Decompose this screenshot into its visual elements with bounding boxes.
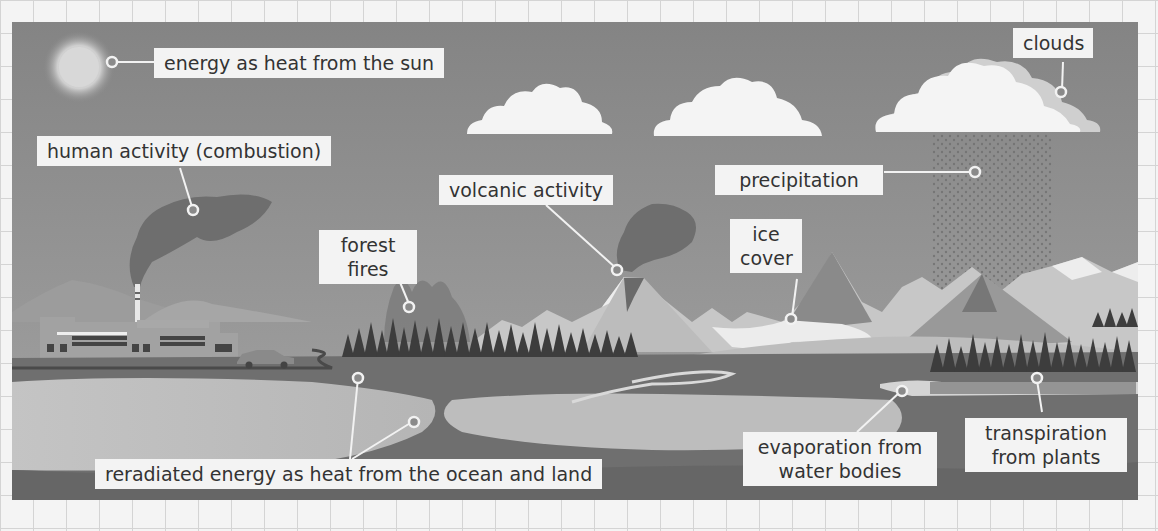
label-clouds: clouds: [1013, 28, 1093, 58]
label-human-activity: human activity (combustion): [37, 136, 331, 166]
label-line: transpiration: [975, 421, 1117, 445]
label-volcanic-activity: volcanic activity: [439, 175, 613, 205]
label-line: cover: [740, 246, 792, 270]
tree-reflections: [930, 382, 1136, 394]
label-reradiated-energy: reradiated energy as heat from the ocean…: [95, 459, 602, 489]
label-forest-fires: forest fires: [319, 230, 417, 284]
label-line: ice: [740, 222, 792, 246]
label-ice-cover: ice cover: [730, 219, 802, 273]
factory-icon: [40, 317, 238, 358]
diagram-scene: energy as heat from the sun human activi…: [12, 22, 1138, 500]
label-evaporation: evaporation from water bodies: [743, 432, 937, 486]
label-line: fires: [329, 257, 407, 281]
label-sun-energy: energy as heat from the sun: [154, 48, 444, 78]
label-transpiration: transpiration from plants: [965, 418, 1127, 472]
label-line: evaporation from: [753, 435, 927, 459]
label-line: water bodies: [753, 459, 927, 483]
label-precipitation: precipitation: [715, 165, 883, 195]
label-line: forest: [329, 233, 407, 257]
label-line: from plants: [975, 445, 1117, 469]
